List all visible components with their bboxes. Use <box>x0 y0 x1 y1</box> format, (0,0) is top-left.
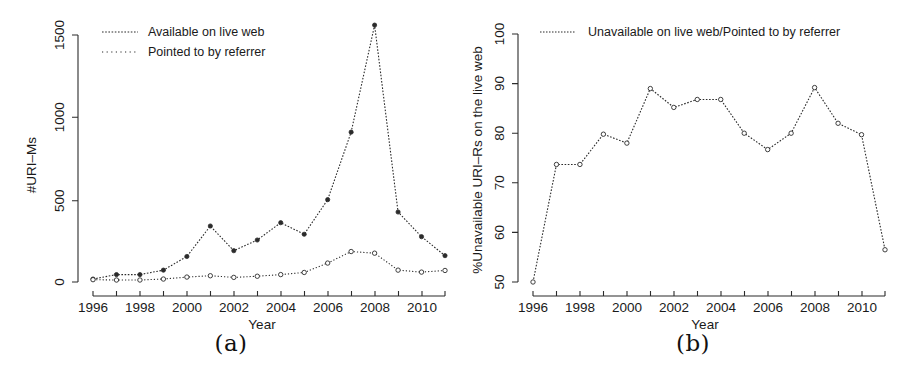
data-point-a-1-1999 <box>161 277 165 281</box>
data-point-b-0-2007 <box>789 131 793 135</box>
data-point-a-0-2009 <box>396 210 400 214</box>
y-tick-label-b-90: 90 <box>492 76 507 91</box>
data-point-a-1-2006 <box>325 261 329 265</box>
x-tick-label-b-2008: 2008 <box>800 300 830 315</box>
legend-label-b-0: Unavailable on live web/Pointed to by re… <box>588 25 840 39</box>
x-axis-ticks-a <box>93 291 445 296</box>
data-point-a-1-1997 <box>114 278 118 282</box>
y-axis-title-a: #URI–Ms <box>24 137 39 194</box>
data-point-a-1-2004 <box>279 272 283 276</box>
chart-panel-b: 50 60 70 80 90 100 %Unavailable URI–Rs o… <box>462 0 924 387</box>
data-point-a-0-2006 <box>326 198 330 202</box>
data-point-a-1-2002 <box>232 275 236 279</box>
x-tick-label-b-2002: 2002 <box>659 300 689 315</box>
data-point-a-0-1998 <box>138 272 142 276</box>
data-point-b-0-1997 <box>554 162 558 166</box>
panel-caption-b: (b) <box>462 330 924 356</box>
x-tick-label-a-1996: 1996 <box>78 300 108 315</box>
data-point-b-0-1996 <box>531 280 535 284</box>
x-tick-label-b-1998: 1998 <box>565 300 595 315</box>
x-axis-ticks-b <box>533 291 885 296</box>
data-point-a-1-1998 <box>138 278 142 282</box>
data-point-a-0-2005 <box>302 232 306 236</box>
y-axis-ticks-b <box>512 34 518 282</box>
data-point-b-0-2000 <box>625 141 629 145</box>
data-point-a-1-1996 <box>91 277 95 281</box>
data-point-b-0-1999 <box>601 132 605 136</box>
x-axis-title-a: Year <box>248 317 276 330</box>
y-tick-label-b-50: 50 <box>492 274 507 289</box>
x-tick-label-a-2004: 2004 <box>266 300 297 315</box>
x-tick-label-b-2004: 2004 <box>706 300 737 315</box>
series-group-b <box>531 85 887 284</box>
data-point-b-0-2006 <box>765 147 769 151</box>
data-point-a-0-2001 <box>208 224 212 228</box>
x-tick-label-a-2006: 2006 <box>313 300 343 315</box>
x-tick-label-b-1996: 1996 <box>518 300 548 315</box>
data-point-a-0-2004 <box>279 221 283 225</box>
y-axis-title-b: %Unavailable URI–Rs on the live web <box>470 46 485 273</box>
data-point-a-0-1997 <box>114 272 118 276</box>
x-tick-label-a-2008: 2008 <box>360 300 390 315</box>
y-tick-label-a-1500: 1500 <box>52 20 67 50</box>
data-point-b-0-2002 <box>672 105 676 109</box>
data-point-a-0-2007 <box>349 130 353 134</box>
x-tick-label-b-2010: 2010 <box>847 300 877 315</box>
x-tick-label-a-2002: 2002 <box>219 300 249 315</box>
data-point-b-0-2005 <box>742 131 746 135</box>
data-point-a-0-2002 <box>232 249 236 253</box>
y-tick-label-b-60: 60 <box>492 225 507 240</box>
data-point-a-1-2000 <box>185 275 189 279</box>
data-point-b-0-1998 <box>578 162 582 166</box>
data-point-a-1-2001 <box>208 274 212 278</box>
data-point-a-1-2009 <box>396 268 400 272</box>
figure-two-panel: 0 500 1000 1500 #URI–Ms 1996 1998 2000 2… <box>0 0 924 387</box>
data-point-a-1-2005 <box>302 270 306 274</box>
data-point-a-1-2010 <box>419 270 423 274</box>
data-point-a-0-2003 <box>255 238 259 242</box>
series-path-a-0 <box>93 25 445 279</box>
data-point-b-0-2004 <box>719 97 723 101</box>
legend-a: Available on live web Pointed to by refe… <box>102 25 265 59</box>
legend-b: Unavailable on live web/Pointed to by re… <box>540 25 840 39</box>
y-tick-label-a-1000: 1000 <box>52 102 67 132</box>
x-tick-label-a-2010: 2010 <box>407 300 437 315</box>
panel-caption-a: (a) <box>0 330 462 356</box>
data-point-b-0-2001 <box>648 86 652 90</box>
data-point-a-0-2008 <box>373 23 377 27</box>
chart-svg-b: 50 60 70 80 90 100 %Unavailable URI–Rs o… <box>462 0 924 330</box>
y-axis-ticks-a <box>72 35 78 282</box>
data-point-a-0-2011 <box>443 254 447 258</box>
legend-label-a-0: Available on live web <box>148 25 265 39</box>
data-point-a-1-2003 <box>255 274 259 278</box>
legend-label-a-1: Pointed to by referrer <box>148 45 265 59</box>
data-point-a-0-2010 <box>419 235 423 239</box>
y-tick-label-b-70: 70 <box>492 175 507 190</box>
data-point-b-0-2008 <box>812 85 816 89</box>
x-tick-label-a-1998: 1998 <box>125 300 155 315</box>
x-tick-label-b-2000: 2000 <box>612 300 642 315</box>
data-point-a-1-2011 <box>443 268 447 272</box>
series-group-a <box>91 23 447 282</box>
data-point-b-0-2003 <box>695 97 699 101</box>
chart-svg-a: 0 500 1000 1500 #URI–Ms 1996 1998 2000 2… <box>0 0 462 330</box>
x-axis-title-b: Year <box>691 317 719 330</box>
data-point-a-1-2007 <box>349 249 353 253</box>
chart-panel-a: 0 500 1000 1500 #URI–Ms 1996 1998 2000 2… <box>0 0 462 387</box>
data-point-a-0-2000 <box>185 254 189 258</box>
series-path-a-1 <box>93 252 445 280</box>
x-tick-label-b-2006: 2006 <box>753 300 783 315</box>
x-tick-label-a-2000: 2000 <box>172 300 202 315</box>
data-point-b-0-2009 <box>836 121 840 125</box>
y-tick-label-a-500: 500 <box>52 189 67 212</box>
y-tick-label-b-100: 100 <box>492 23 507 46</box>
data-point-b-0-2010 <box>859 132 863 136</box>
y-tick-label-a-0: 0 <box>52 278 67 286</box>
data-point-b-0-2011 <box>883 248 887 252</box>
series-path-b-0 <box>533 88 885 282</box>
y-tick-label-b-80: 80 <box>492 126 507 141</box>
data-point-a-1-2008 <box>372 251 376 255</box>
data-point-a-0-1999 <box>161 268 165 272</box>
